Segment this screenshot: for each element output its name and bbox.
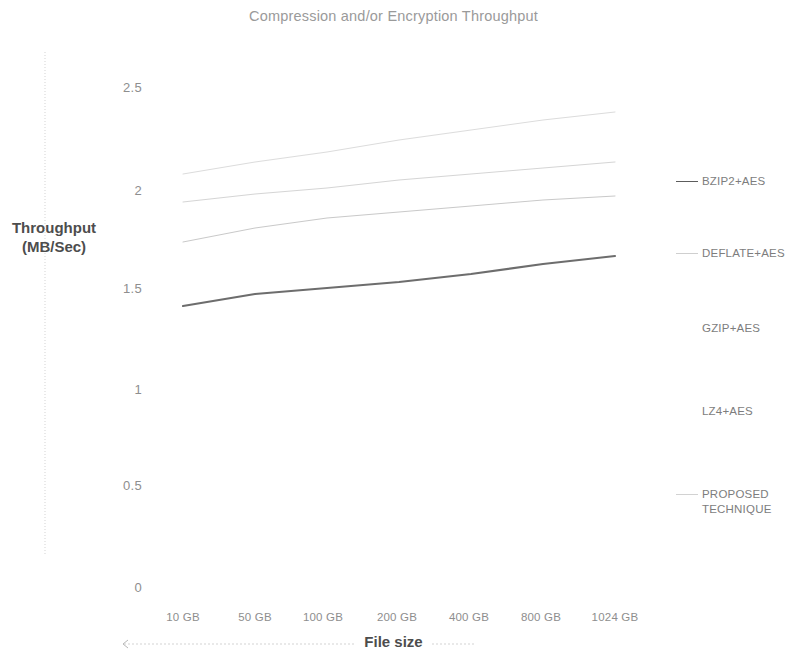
series-line-gzip-aes bbox=[183, 162, 615, 202]
chart-container: Compression and/or Encryption Throughput… bbox=[0, 0, 787, 658]
series-line-bzip2-aes bbox=[183, 256, 615, 306]
series-line-lz4-aes bbox=[183, 112, 615, 174]
series-line-deflate-aes bbox=[183, 196, 615, 242]
plot-area bbox=[0, 0, 787, 658]
